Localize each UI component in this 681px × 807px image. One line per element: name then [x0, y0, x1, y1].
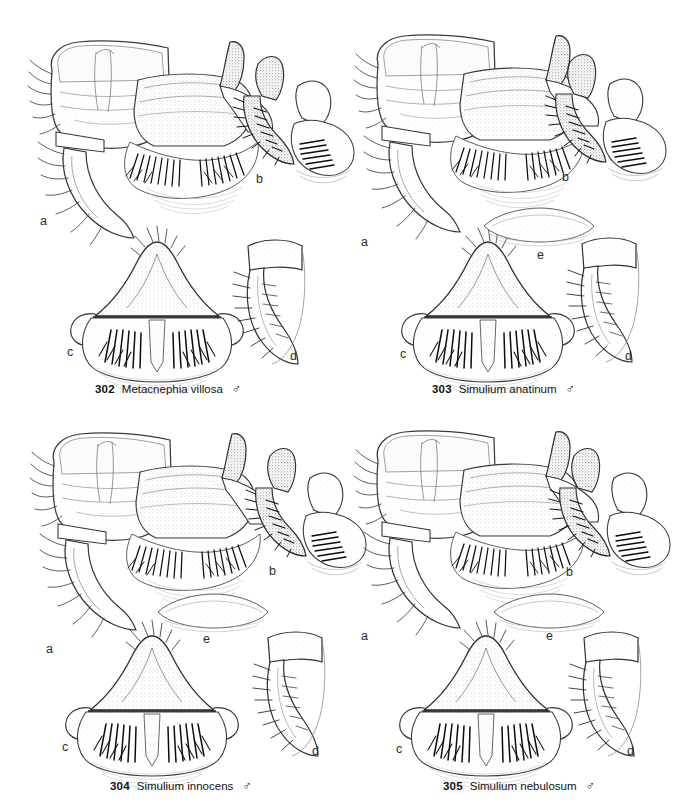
- panel-label-303-c: c: [400, 348, 406, 361]
- panel-label-303-d: d: [625, 350, 632, 363]
- species-name-304: Simulium innocens: [137, 780, 234, 792]
- panel-label-303-b: b: [562, 171, 569, 184]
- panel-label-302-d: d: [290, 350, 297, 363]
- male-symbol-302: ♂: [232, 382, 241, 396]
- panel-label-303-e: e: [537, 249, 544, 262]
- figure-303-artwork: [354, 35, 666, 394]
- figure-number-304: 304: [110, 780, 130, 792]
- panel-label-302-a: a: [40, 215, 47, 228]
- figure-304-artwork: [30, 433, 366, 788]
- figure-caption-304: 304Simulium innocens♂: [110, 780, 252, 793]
- illustration-plate: a b c d a b c d e a b c d e a b c d e 30…: [0, 0, 681, 807]
- figure-caption-303: 303Simulium anatinum♂: [432, 383, 575, 396]
- panel-label-304-b: b: [269, 565, 276, 578]
- male-symbol-303: ♂: [566, 382, 575, 396]
- species-name-302: Metacnephia villosa: [122, 383, 223, 395]
- figure-number-305: 305: [443, 780, 463, 792]
- panel-label-303-a: a: [361, 236, 368, 249]
- figure-305-artwork: [354, 431, 670, 788]
- panel-label-304-d: d: [312, 745, 319, 758]
- panel-label-305-a: a: [361, 630, 368, 643]
- plate-artwork: [0, 0, 681, 807]
- figure-caption-305: 305Simulium nebulosum♂: [443, 780, 595, 793]
- figure-number-302: 302: [95, 383, 115, 395]
- panel-label-305-c: c: [396, 743, 402, 756]
- panel-label-302-b: b: [256, 173, 263, 186]
- panel-label-305-e: e: [546, 630, 553, 643]
- figure-302-artwork: [28, 41, 354, 394]
- panel-label-305-d: d: [627, 745, 634, 758]
- panel-label-304-a: a: [46, 643, 53, 656]
- male-symbol-305: ♂: [586, 779, 595, 793]
- figure-caption-302: 302Metacnephia villosa♂: [95, 383, 241, 396]
- panel-label-305-b: b: [566, 566, 573, 579]
- species-name-305: Simulium nebulosum: [470, 780, 577, 792]
- figure-number-303: 303: [432, 383, 452, 395]
- panel-label-304-e: e: [203, 633, 210, 646]
- panel-label-302-c: c: [67, 346, 73, 359]
- panel-label-304-c: c: [62, 741, 68, 754]
- male-symbol-304: ♂: [242, 779, 251, 793]
- species-name-303: Simulium anatinum: [459, 383, 557, 395]
